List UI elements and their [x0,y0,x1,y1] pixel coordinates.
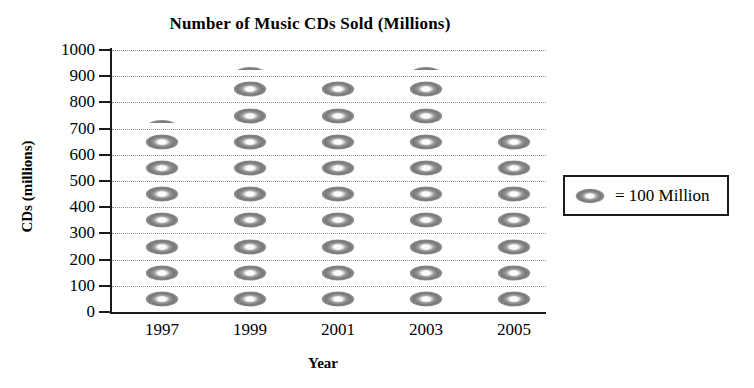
cd-disc-icon [145,212,179,229]
y-axis-tick-label: 900 [37,66,95,86]
cd-disc-icon [409,107,443,124]
y-axis-tick-label: 300 [37,223,95,243]
y-axis-tick [99,285,112,287]
x-axis-tick-label: 1997 [145,320,179,340]
cd-disc-icon [409,238,443,255]
gridline [112,233,546,234]
y-axis-tick [99,49,112,51]
y-axis-tick [99,128,112,130]
cd-disc-icon [321,264,355,281]
cd-disc-icon [321,133,355,150]
cd-disc-icon [145,133,179,150]
cd-disc-icon [321,159,355,176]
cd-disc-icon [497,238,531,255]
cd-disc-half-icon [409,62,443,70]
cd-disc-icon [233,212,267,229]
cd-disc-icon [409,159,443,176]
cd-disc-icon [409,212,443,229]
y-axis-tick-label: 700 [37,119,95,139]
y-axis-tick-label: 100 [37,276,95,296]
cd-disc-icon [409,81,443,98]
y-axis-tick-label: 200 [37,250,95,270]
y-axis-tick-label: 400 [37,197,95,217]
cd-disc-icon [321,290,355,307]
cd-disc-icon [321,81,355,98]
y-axis-tick [99,206,112,208]
y-axis-tick [99,259,112,261]
y-axis-tick-label: 800 [37,92,95,112]
y-axis-tick [99,101,112,103]
cd-disc-icon [497,186,531,203]
cd-disc-icon [233,264,267,281]
legend-label: = 100 Million [615,186,710,206]
gridline [112,129,546,130]
chart-title: Number of Music CDs Sold (Millions) [60,14,560,34]
cd-disc-icon [575,188,605,204]
cd-disc-icon [145,290,179,307]
y-axis-tick-label: 1000 [37,40,95,60]
cd-disc-icon [233,186,267,203]
x-axis-tick-label: 2001 [321,320,355,340]
x-axis-tick-label: 2003 [409,320,443,340]
cd-disc-icon [233,290,267,307]
legend: = 100 Million [563,175,729,216]
y-axis-tick [99,232,112,234]
cd-disc-icon [409,264,443,281]
cd-disc-icon [145,186,179,203]
cd-disc-icon [321,107,355,124]
gridline [112,155,546,156]
y-axis-tick-label: 600 [37,145,95,165]
cd-disc-icon [145,264,179,281]
x-axis-tick-label: 2005 [497,320,531,340]
y-axis-tick [99,75,112,77]
y-axis-tick-label: 0 [37,302,95,322]
x-axis-line [110,312,546,314]
y-axis-tick [99,311,112,313]
cd-disc-icon [409,186,443,203]
pictograph-chart: Number of Music CDs Sold (Millions) CDs … [0,0,754,388]
cd-disc-icon [497,264,531,281]
gridline [112,50,546,51]
gridline [112,76,546,77]
cd-disc-icon [233,107,267,124]
gridline [112,181,546,182]
cd-disc-half-icon [233,62,267,70]
cd-disc-icon [497,159,531,176]
cd-disc-icon [409,133,443,150]
cd-disc-icon [409,290,443,307]
cd-disc-icon [233,81,267,98]
y-axis-tick [99,180,112,182]
cd-disc-icon [233,133,267,150]
cd-disc-icon [497,133,531,150]
cd-disc-half-icon [145,115,179,123]
cd-disc-icon [497,212,531,229]
cd-disc-icon [321,238,355,255]
gridline [112,207,546,208]
gridline [112,286,546,287]
plot-area: 01002003004005006007008009001000 1997199… [110,48,546,314]
y-axis-tick [99,154,112,156]
gridline [112,102,546,103]
x-axis-tick-label: 1999 [233,320,267,340]
cd-disc-icon [145,159,179,176]
cd-disc-icon [233,159,267,176]
y-axis-tick-label: 500 [37,171,95,191]
cd-disc-icon [497,290,531,307]
y-axis-label: CDs (millions) [19,97,36,277]
gridline [112,260,546,261]
cd-disc-icon [233,238,267,255]
cd-disc-icon [321,212,355,229]
cd-disc-icon [321,186,355,203]
x-axis-label: Year [100,355,546,372]
cd-disc-icon [145,238,179,255]
